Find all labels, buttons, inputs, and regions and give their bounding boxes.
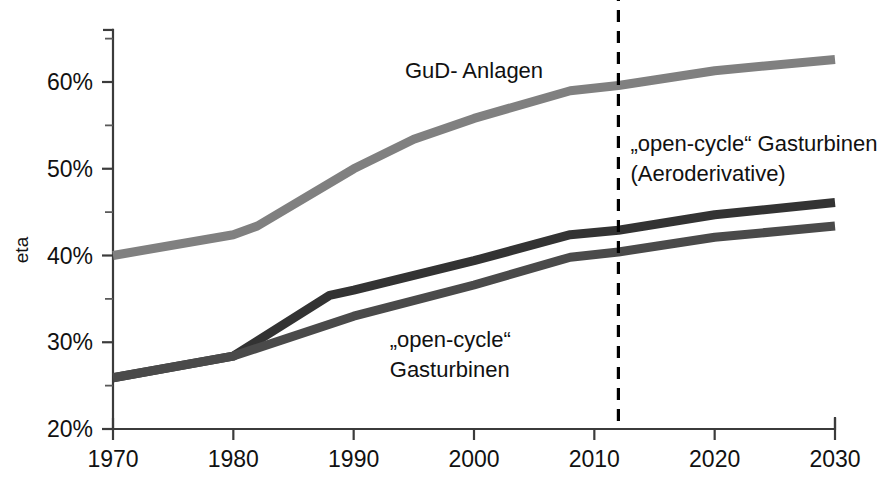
annotation-aeroderivative: „open-cycle“ Gasturbinen(Aeroderivative) [630,131,877,186]
y-axis-major-ticks [102,82,113,429]
x-tick-label-2020: 2020 [689,446,740,472]
annotation-gud-line-0: GuD- Anlagen [405,58,543,83]
x-tick-label-1970: 1970 [87,446,138,472]
efficiency-line-chart: 20%30%40%50%60% 197019801990200020102020… [0,0,889,493]
x-axis-line [113,418,835,429]
series-line-0 [113,59,835,255]
y-tick-label-30: 30% [47,329,93,355]
x-tick-label-2030: 2030 [809,446,860,472]
x-tick-label-1980: 1980 [208,446,259,472]
annotation-open-cycle-line-1: Gasturbinen [390,357,510,382]
annotation-aeroderivative-line-1: (Aeroderivative) [630,161,785,186]
x-axis-tick-labels: 1970198019902000201020202030 [87,446,860,472]
y-axis-title: eta [11,236,32,263]
y-tick-label-40: 40% [47,243,93,269]
chart-container: 20%30%40%50%60% 197019801990200020102020… [0,0,889,493]
series-line-2 [113,226,835,378]
x-tick-label-1990: 1990 [328,446,379,472]
y-tick-label-60: 60% [47,69,93,95]
chart-annotations: GuD- Anlagen„open-cycle“ Gasturbinen(Aer… [390,58,878,382]
y-axis-tick-labels: 20%30%40%50%60% [47,69,93,442]
annotation-open-cycle-line-0: „open-cycle“ [390,327,511,352]
y-axis-minor-ticks [103,30,113,386]
x-tick-label-2010: 2010 [569,446,620,472]
annotation-open-cycle: „open-cycle“Gasturbinen [390,327,511,382]
x-tick-label-2000: 2000 [448,446,499,472]
annotation-aeroderivative-line-0: „open-cycle“ Gasturbinen [630,131,877,156]
y-tick-label-50: 50% [47,156,93,182]
y-tick-label-20: 20% [47,416,93,442]
annotation-gud: GuD- Anlagen [405,58,543,83]
